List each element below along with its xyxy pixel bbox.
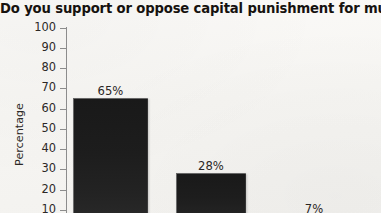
y-axis-tick-mark <box>60 88 67 89</box>
y-axis-tick-label: 70 <box>14 82 56 93</box>
y-axis-tick-label: 30 <box>14 163 56 174</box>
y-axis-tick-label: 80 <box>14 62 56 73</box>
bar <box>176 173 246 213</box>
y-axis-tick-label: 60 <box>14 103 56 114</box>
bar-chart-figure: Do you support or oppose capital punishm… <box>0 0 381 213</box>
y-axis-tick-label: 40 <box>14 143 56 154</box>
y-axis-tick-label: 10 <box>14 204 56 213</box>
y-axis-tick-label: 50 <box>14 123 56 134</box>
y-axis-tick-mark <box>60 210 67 211</box>
y-axis-tick-mark <box>60 149 67 150</box>
y-axis-tick-mark <box>60 129 67 130</box>
y-axis-tick-mark <box>60 169 67 170</box>
y-axis-tick-mark <box>60 190 67 191</box>
bar-value-label: 65% <box>73 84 148 98</box>
y-axis-line <box>66 27 67 213</box>
y-axis-tick-mark <box>60 48 67 49</box>
y-axis-tick-mark <box>60 109 67 110</box>
bar <box>73 98 148 213</box>
bar-value-label: 28% <box>176 159 246 173</box>
bar-value-label: 7% <box>279 202 349 213</box>
y-axis-tick-label: 20 <box>14 184 56 195</box>
y-axis-tick-mark <box>60 68 67 69</box>
y-axis-tick-label: 100 <box>14 22 56 33</box>
chart-title: Do you support or oppose capital punishm… <box>0 1 381 16</box>
y-axis-tick-mark <box>60 28 67 29</box>
y-axis-tick-label: 90 <box>14 42 56 53</box>
